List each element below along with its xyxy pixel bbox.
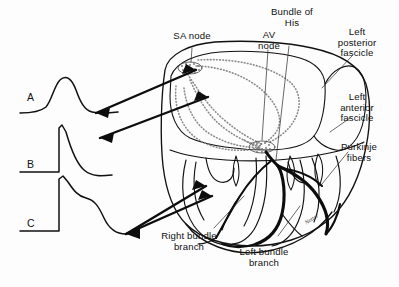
tracing-label-c: C: [27, 217, 35, 229]
label-sa-node: SA node: [166, 31, 218, 42]
tracing-label-b: B: [27, 158, 34, 170]
conduction-system-figure: SA node AV node Bundle of His Left poste…: [0, 0, 399, 287]
leader-lines: [191, 46, 352, 236]
label-av-node: AV node: [252, 30, 286, 51]
label-bundle-of-his: Bundle of His: [262, 7, 322, 28]
label-purkinje-fibers: Purkinje fibers: [332, 142, 386, 163]
arrow-heads: [96, 64, 212, 239]
tracing-a-curve: [20, 77, 118, 113]
label-left-bundle-branch: Left bundle branch: [226, 247, 302, 268]
tracing-label-a: A: [27, 91, 34, 103]
label-left-posterior-fascicle: Left posterior fascicle: [326, 27, 388, 59]
tracing-c-curve: [20, 176, 126, 234]
pointer-arrows: [96, 70, 212, 234]
label-left-anterior-fascicle: Left anterior fascicle: [328, 92, 386, 124]
label-right-bundle-branch: Right bundle branch: [150, 231, 228, 252]
